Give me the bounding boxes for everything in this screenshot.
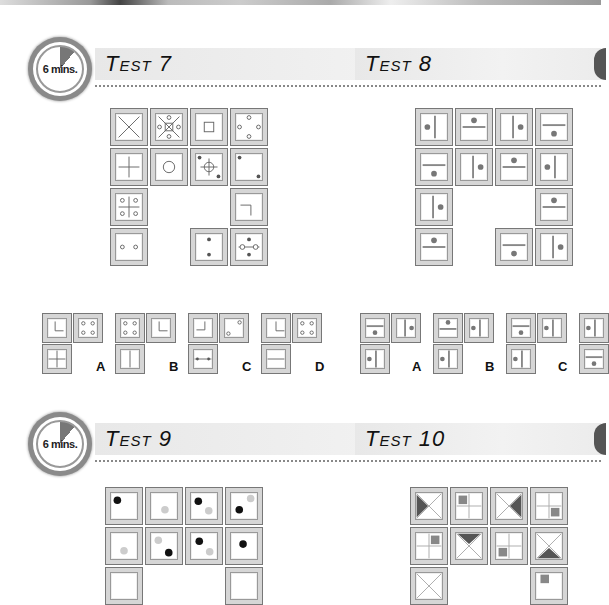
timer-badge-test7: 6 mins.: [28, 37, 92, 101]
test-title: Test 9: [105, 426, 172, 452]
header-test8: Test 8: [355, 48, 601, 80]
header-test10: Test 10: [355, 423, 601, 455]
option-label: B: [169, 359, 178, 374]
option-label: A: [96, 359, 105, 374]
option-label: C: [242, 359, 251, 374]
timer-badge-test9: 6 mins.: [28, 412, 92, 476]
timer-edge: [594, 48, 606, 80]
test-title: Test 10: [365, 426, 445, 452]
option-label: D: [315, 359, 324, 374]
timer-label: 6 mins.: [28, 412, 92, 476]
timer-edge: [594, 423, 606, 455]
option-label: A: [412, 359, 421, 374]
option-label: C: [558, 359, 567, 374]
top-image-strip: [0, 0, 601, 5]
option-label: B: [485, 359, 494, 374]
timer-label: 6 mins.: [28, 37, 92, 101]
test-title: Test 8: [365, 51, 432, 77]
test-title: Test 7: [105, 51, 172, 77]
